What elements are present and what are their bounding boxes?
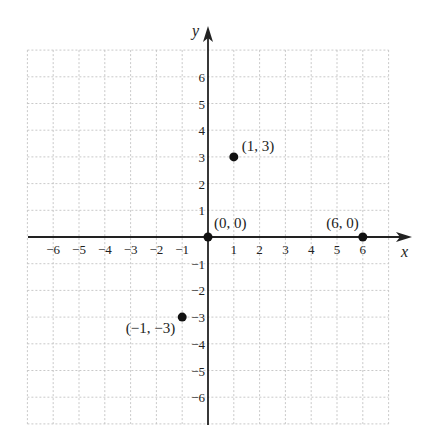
x-tick-label: −1	[175, 242, 189, 257]
x-tick-label: 5	[334, 242, 341, 257]
x-tick-label: −6	[46, 242, 60, 257]
point-label: (6, 0)	[326, 215, 359, 232]
coordinate-plane: x y −6−5−4−3−2−1123456654321−1−2−3−4−5−6…	[0, 0, 430, 444]
data-point	[229, 152, 238, 161]
data-point	[178, 313, 187, 322]
y-tick-label: −2	[191, 283, 205, 298]
y-tick-label: 5	[199, 97, 206, 112]
x-axis-label: x	[400, 243, 408, 260]
x-tick-label: −5	[72, 242, 86, 257]
x-tick-label: 6	[360, 242, 367, 257]
y-tick-label: −6	[191, 390, 205, 405]
x-tick-label: 4	[308, 242, 315, 257]
point-label: (1, 3)	[242, 138, 274, 155]
x-tick-label: −3	[124, 242, 138, 257]
y-tick-label: 4	[199, 123, 206, 138]
point-label: (−1, −3)	[126, 320, 175, 337]
y-tick-label: 1	[199, 203, 206, 218]
x-tick-label: 2	[256, 242, 263, 257]
data-point	[204, 233, 213, 242]
y-tick-label: 3	[199, 150, 206, 165]
y-tick-label: −3	[191, 310, 205, 325]
x-tick-label: 1	[231, 242, 238, 257]
x-tick-label: 3	[282, 242, 289, 257]
x-tick-label: −2	[149, 242, 163, 257]
data-point	[358, 233, 367, 242]
x-tick-label: −4	[98, 242, 112, 257]
y-axis-label: y	[190, 22, 200, 40]
y-tick-label: −5	[191, 364, 205, 379]
y-tick-label: 2	[199, 177, 206, 192]
y-tick-label: 6	[199, 70, 206, 85]
y-tick-label: −1	[191, 257, 205, 272]
y-tick-label: −4	[191, 337, 205, 352]
point-label: (0, 0)	[214, 215, 247, 232]
